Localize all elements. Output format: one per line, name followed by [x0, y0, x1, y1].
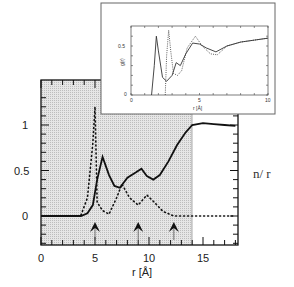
xtick-0: 0 — [38, 252, 44, 264]
inset-x-axis-label: r [Å] — [193, 105, 203, 111]
figure: 0 0.5 1 0 5 10 15 r [Å] 0.5 0 0 5 10 r [… — [0, 0, 294, 287]
xtick-10: 10 — [143, 252, 155, 264]
ytick-0.5: 0.5 — [14, 165, 29, 177]
inset-xtick-10: 10 — [265, 97, 271, 103]
side-label: n/ r — [253, 166, 271, 182]
inset-ytick-0.5: 0.5 — [118, 43, 125, 49]
inset-y-axis-label: g(r) — [119, 58, 125, 66]
xtick-15: 15 — [197, 252, 209, 264]
inset-ytick-0: 0 — [124, 91, 127, 97]
x-axis-label: r [Å] — [132, 266, 152, 278]
ytick-1: 1 — [22, 119, 28, 131]
ytick-0: 0 — [22, 210, 28, 222]
inset-xtick-5: 5 — [198, 97, 201, 103]
xtick-5: 5 — [92, 252, 98, 264]
inset-plot: 0.5 0 0 5 10 r [Å] g(r) — [101, 3, 275, 114]
inset-xtick-0: 0 — [130, 97, 133, 103]
